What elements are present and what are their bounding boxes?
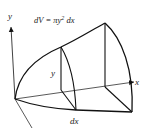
radius-label: y	[50, 68, 55, 78]
bottom-curve	[15, 99, 132, 112]
x-axis-label: x	[134, 77, 139, 87]
end-base-line	[105, 87, 132, 112]
solid-of-revolution-diagram: y x y dx dV = πy2 dx	[0, 0, 143, 137]
end-arc	[105, 23, 132, 112]
y-axis	[11, 27, 15, 99]
slice-base-line	[61, 90, 76, 110]
volume-formula: dV = πy2 dx	[34, 15, 75, 25]
top-curve	[15, 23, 105, 99]
thickness-label: dx	[70, 116, 79, 126]
y-axis-label: y	[7, 11, 12, 21]
